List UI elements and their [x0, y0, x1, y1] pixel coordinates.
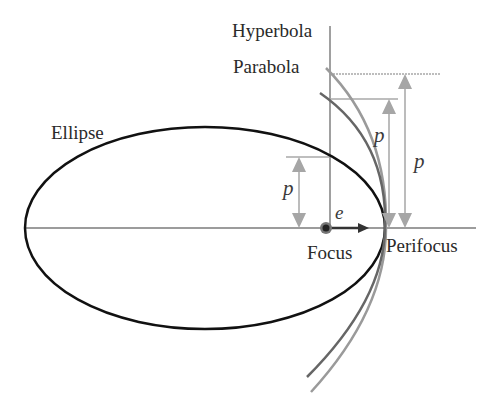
eccentricity-vector	[326, 223, 369, 233]
focus-point	[320, 222, 332, 234]
ellipse-label: Ellipse	[51, 122, 104, 144]
hyperbola-p-label: p	[414, 149, 425, 174]
conic-orbits-diagram: Hyperbola Parabola Ellipse Focus Perifoc…	[0, 0, 500, 412]
perifocus-label: Perifocus	[386, 235, 458, 257]
focus-label: Focus	[307, 242, 352, 264]
ellipse-p-arrow	[292, 157, 306, 228]
parabola-p-label: p	[374, 123, 385, 148]
ellipse-p-label: p	[283, 176, 294, 201]
hyperbola-p-arrow	[398, 74, 412, 228]
parabola-label: Parabola	[233, 56, 299, 78]
hyperbola-label: Hyperbola	[232, 20, 312, 42]
eccentricity-label: e	[335, 202, 343, 224]
